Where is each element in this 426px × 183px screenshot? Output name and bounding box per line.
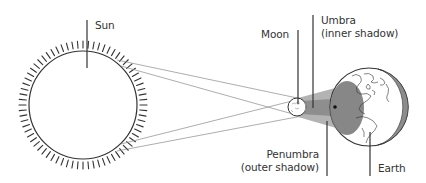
moon-body bbox=[288, 98, 306, 116]
sun-label: Sun bbox=[95, 19, 115, 32]
earth-globe bbox=[330, 68, 408, 146]
penumbra-label-subtitle: (outer shadow) bbox=[226, 161, 319, 174]
earth-label: Earth bbox=[378, 162, 406, 175]
umbra-label: Umbra (inner shadow) bbox=[321, 14, 398, 40]
penumbra-label-title: Penumbra bbox=[226, 148, 319, 161]
umbra-label-subtitle: (inner shadow) bbox=[321, 27, 398, 40]
sun-disc bbox=[29, 51, 137, 159]
moon-label: Moon bbox=[261, 28, 289, 41]
umbra-label-title: Umbra bbox=[321, 14, 398, 27]
penumbra-label: Penumbra (outer shadow) bbox=[226, 148, 319, 174]
